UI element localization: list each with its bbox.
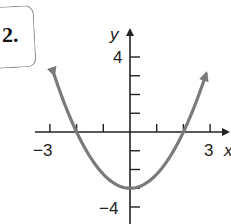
y-axis-label: y — [109, 25, 120, 44]
parabola-graph: −3 3 4 −4 y x — [0, 0, 231, 224]
y-tick-label-min: −4 — [99, 199, 118, 218]
y-tick-label-max: 4 — [113, 48, 122, 67]
x-tick-label-max: 3 — [204, 141, 213, 160]
x-tick-label-min: −3 — [33, 141, 52, 160]
x-axis-label: x — [223, 141, 231, 160]
